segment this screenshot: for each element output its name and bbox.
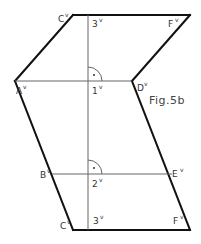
label-2: 2 (92, 179, 98, 189)
label-3-bottom-sup: v (100, 213, 104, 220)
label-d-sup: v (144, 80, 148, 87)
label-1-sup: v (99, 83, 103, 90)
label-c-bottom-sup: v (67, 218, 71, 225)
fig-5b-diagram: C v 3 v F v A v 1 v D v B v 2 v E v C v … (0, 0, 201, 244)
label-1: 1 (92, 86, 98, 96)
right-angle-mark-2v (88, 160, 102, 174)
label-c-top-sup: v (65, 11, 69, 18)
label-a: A (16, 86, 23, 96)
label-c-bottom: C (60, 221, 66, 231)
label-f-top: F (168, 19, 173, 29)
label-e: E (172, 169, 178, 179)
label-f-bottom: F (173, 216, 178, 226)
label-b: B (40, 170, 46, 180)
figure-caption: Fig.5b (149, 94, 185, 107)
label-3-bottom: 3 (93, 216, 99, 226)
label-f-top-sup: v (175, 16, 179, 23)
label-e-sup: v (180, 166, 184, 173)
label-2-sup: v (99, 176, 103, 183)
right-angle-mark-1v (88, 67, 102, 81)
edge-a-c-bottom (15, 81, 73, 230)
edge-c-a (15, 15, 73, 81)
label-c-top: C (58, 14, 64, 24)
label-a-sup: v (23, 83, 27, 90)
label-3-top: 3 (92, 19, 98, 29)
label-d: D (137, 83, 144, 93)
label-3-top-sup: v (99, 16, 103, 23)
edge-f-d (132, 15, 190, 81)
label-b-sup: v (47, 167, 51, 174)
label-f-bottom-sup: v (180, 213, 184, 220)
point-labels: C v 3 v F v A v 1 v D v B v 2 v E v C v … (16, 11, 184, 231)
outline-edges (15, 15, 190, 230)
